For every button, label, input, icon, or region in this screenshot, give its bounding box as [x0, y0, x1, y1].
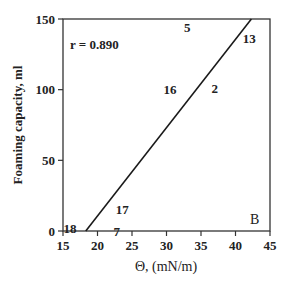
- x-axis-ticks: 15202530354045: [57, 231, 278, 253]
- y-axis-ticks: 050100150: [36, 12, 64, 239]
- y-tick-label: 0: [49, 224, 56, 239]
- data-point-label: 18: [63, 221, 77, 236]
- y-tick-label: 50: [42, 153, 55, 168]
- data-point-label: 2: [212, 81, 219, 96]
- y-tick-label: 150: [36, 12, 56, 27]
- x-tick-label: 30: [160, 238, 173, 253]
- x-axis-title: Θ, (mN/m): [135, 259, 198, 275]
- x-tick-label: 20: [91, 238, 104, 253]
- data-point-label: 13: [243, 31, 257, 46]
- x-tick-label: 45: [264, 238, 278, 253]
- correlation-annotation: r = 0.890: [70, 37, 119, 52]
- x-tick-label: 25: [126, 238, 140, 253]
- foaming-capacity-chart: 050100150 15202530354045 51316217187 r =…: [0, 0, 290, 291]
- x-tick-label: 35: [195, 238, 209, 253]
- panel-label: B: [250, 212, 259, 227]
- data-point-label: 5: [184, 20, 191, 35]
- x-tick-label: 40: [229, 238, 242, 253]
- data-point-label: 17: [116, 202, 130, 217]
- y-axis-title: Foaming capacity, ml: [10, 65, 25, 184]
- data-point-label: 16: [163, 82, 177, 97]
- data-point-label: 7: [114, 224, 121, 239]
- y-tick-label: 100: [36, 82, 56, 97]
- point-labels: 51316217187: [63, 20, 256, 239]
- x-tick-label: 15: [57, 238, 71, 253]
